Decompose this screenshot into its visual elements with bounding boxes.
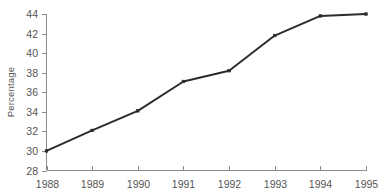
data-point-marker: [91, 129, 94, 132]
data-point-marker: [319, 15, 322, 18]
y-tick-label: 44: [26, 8, 38, 20]
y-tick-label: 36: [26, 86, 38, 98]
y-tick-label: 32: [26, 125, 38, 137]
x-tick-label: 1988: [36, 178, 60, 190]
y-tick-label: 40: [26, 47, 38, 59]
x-tick-label: 1990: [127, 178, 151, 190]
y-tick-label: 28: [26, 165, 38, 177]
x-tick-label: 1994: [309, 178, 333, 190]
data-point-marker: [228, 69, 231, 72]
data-point-marker: [45, 150, 48, 153]
data-point-marker: [182, 80, 185, 83]
y-tick-label: 30: [26, 145, 38, 157]
x-tick-label: 1992: [218, 178, 242, 190]
y-tick-label: 34: [26, 106, 38, 118]
x-tick-label: 1993: [264, 178, 288, 190]
y-axis-title: Percentage: [5, 67, 16, 118]
data-point-marker: [136, 110, 139, 113]
y-axis-tick-labels: 283032343638404244: [26, 8, 38, 177]
y-tick-label: 42: [26, 28, 38, 40]
chart-canvas: 283032343638404244 Percentage 1988198919…: [0, 0, 379, 195]
line-chart: 283032343638404244 Percentage 1988198919…: [0, 0, 379, 195]
y-tick-label: 38: [26, 67, 38, 79]
chart-background: [0, 0, 379, 195]
data-point-marker: [273, 34, 276, 37]
x-tick-label: 1989: [81, 178, 105, 190]
x-tick-label: 1991: [172, 178, 196, 190]
x-tick-label: 1995: [355, 178, 379, 190]
data-point-marker: [365, 13, 368, 16]
